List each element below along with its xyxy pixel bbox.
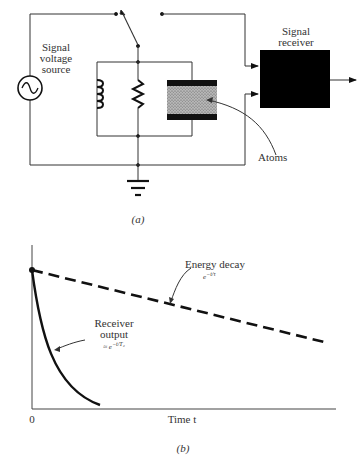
atoms-pointer-arrow bbox=[208, 100, 276, 155]
signal-receiver-box bbox=[260, 50, 330, 108]
switch-blade bbox=[122, 12, 138, 45]
wire-to-receiver-top bbox=[162, 14, 258, 66]
source-label: Signal voltage source bbox=[34, 42, 78, 75]
inductor-icon bbox=[97, 80, 103, 108]
switch-arrowhead bbox=[120, 10, 125, 15]
capacitor-plate-top bbox=[167, 80, 217, 86]
source-label-line3: source bbox=[34, 64, 78, 75]
receiver-formula-prefix: ≈ e bbox=[103, 343, 112, 351]
x-axis-label: Time t bbox=[160, 414, 204, 425]
energy-decay-title: Energy decay bbox=[185, 259, 255, 270]
caption-b: (b) bbox=[171, 443, 195, 454]
receiver-output-label: Receiver output ≈ e−t/T₂ bbox=[88, 318, 140, 351]
receiver-output-formula: ≈ e−t/T₂ bbox=[88, 340, 140, 351]
capacitor-plate-bottom bbox=[167, 114, 217, 120]
switch-contact-left bbox=[114, 12, 117, 15]
energy-decay-formula: e−t/τ bbox=[185, 270, 255, 281]
energy-decay-line bbox=[32, 270, 324, 342]
caption-a: (a) bbox=[126, 214, 150, 225]
receiver-label-line2: receiver bbox=[270, 37, 322, 48]
energy-formula-exp: −t/τ bbox=[206, 271, 216, 277]
receiver-pointer-arrow bbox=[57, 340, 85, 349]
start-point bbox=[29, 267, 35, 273]
energy-decay-label: Energy decay e−t/τ bbox=[185, 259, 255, 281]
origin-label: 0 bbox=[26, 414, 38, 425]
ground-icon bbox=[127, 181, 149, 195]
receiver-formula-exp: −t/T₂ bbox=[112, 341, 125, 347]
atoms-label: Atoms bbox=[258, 152, 298, 163]
decay-graph bbox=[29, 245, 336, 409]
receiver-output-line2: output bbox=[88, 329, 140, 340]
receiver-label: Signal receiver bbox=[270, 26, 322, 48]
resistor-icon bbox=[133, 80, 143, 108]
